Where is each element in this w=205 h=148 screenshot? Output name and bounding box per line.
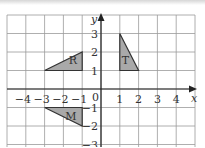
coordinate-grid: RTM x y 0 −4−3−2−11234321−1−2−3 bbox=[0, 0, 205, 147]
x-tick-label: 2 bbox=[135, 93, 142, 106]
x-tick-label: −4 bbox=[15, 93, 31, 106]
y-tick-label: 2 bbox=[91, 46, 98, 59]
triangle-label-t: T bbox=[122, 54, 130, 67]
x-tick-label: −2 bbox=[52, 93, 68, 106]
y-tick-label: −2 bbox=[82, 120, 98, 133]
triangle-label-m: M bbox=[65, 110, 76, 123]
x-axis-label: x bbox=[191, 92, 198, 105]
x-tick-label: 3 bbox=[154, 93, 161, 106]
x-tick-label: −3 bbox=[33, 93, 49, 106]
y-axis-label: y bbox=[90, 13, 98, 26]
y-tick-label: −3 bbox=[82, 139, 98, 148]
y-tick-label: 3 bbox=[91, 28, 98, 41]
tick-labels: −4−3−2−11234321−1−2−3 bbox=[15, 28, 180, 148]
triangle-label-r: R bbox=[69, 54, 78, 67]
x-tick-label: 4 bbox=[173, 93, 180, 106]
y-axis-arrow-icon bbox=[98, 13, 105, 21]
x-tick-label: 1 bbox=[116, 93, 123, 106]
y-tick-label: −1 bbox=[82, 102, 98, 115]
y-tick-label: 1 bbox=[91, 65, 98, 78]
